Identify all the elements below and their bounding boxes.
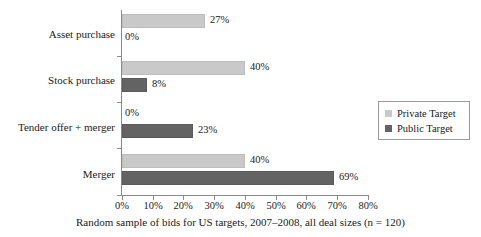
bar-stock-public-row: 8% [122,78,368,92]
y-axis-tick [117,148,121,149]
chart-legend: Private Target Public Target [378,101,470,140]
y-axis-label-stock-purchase: Stock purchase [0,74,115,86]
bar-value-asset-private: 27% [210,13,229,27]
bar-stock-purchase-public-target [122,78,147,92]
x-axis-tick-label-50: 50% [259,200,293,211]
bar-stock-purchase-private-target [122,61,245,75]
bar-asset-public-row: 0% [122,31,368,45]
x-axis-tick-label-70: 70% [320,200,354,211]
legend-label-private-target: Private Target [397,108,456,119]
y-axis-tick [117,56,121,57]
bar-value-merger-public: 69% [339,170,358,184]
x-axis-tick-label-80: 80% [351,200,385,211]
bar-value-asset-public: 0% [125,30,139,44]
x-axis-tick-label-60: 60% [289,200,323,211]
bar-chart: Asset purchase 27% 0% Stock purchase 40%… [0,0,481,237]
bar-merger-private-row: 40% [122,154,368,168]
x-axis-tick-label-20: 20% [166,200,200,211]
x-axis-tick-label-0: 0% [105,200,139,211]
bar-value-merger-private: 40% [250,153,269,167]
bar-merger-public-row: 69% [122,171,368,185]
bar-value-tender-public: 23% [198,123,217,137]
bar-tender-public-row: 23% [122,124,368,138]
bar-value-stock-public: 8% [152,77,166,91]
bar-tender-private-row: 0% [122,107,368,121]
y-axis-tick [117,102,121,103]
y-axis-label-merger: Merger [0,168,115,180]
public-target-swatch-icon [385,125,392,132]
bar-value-stock-private: 40% [250,60,269,74]
bar-tender-offer-merger-public-target [122,124,193,138]
x-axis-tick-label-30: 30% [197,200,231,211]
bar-asset-purchase-private-target [122,14,205,28]
bar-value-tender-private: 0% [125,106,139,120]
x-axis-tick-label-40: 40% [228,200,262,211]
bar-asset-private-row: 27% [122,14,368,28]
private-target-swatch-icon [385,110,392,117]
y-axis-label-asset-purchase: Asset purchase [0,28,115,40]
y-axis-tick [117,195,121,196]
bar-merger-private-target [122,154,245,168]
legend-item-private-target: Private Target [385,106,469,121]
chart-caption: Random sample of bids for US targets, 20… [0,216,481,228]
x-axis-tick-label-10: 10% [136,200,170,211]
y-axis-label-tender-offer-merger: Tender offer + merger [0,121,115,133]
bar-stock-private-row: 40% [122,61,368,75]
legend-item-public-target: Public Target [385,121,469,136]
legend-label-public-target: Public Target [397,123,453,134]
bar-merger-public-target [122,171,334,185]
